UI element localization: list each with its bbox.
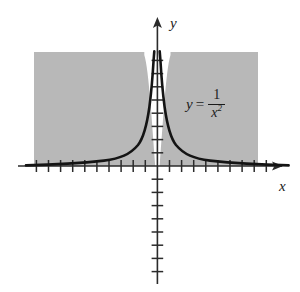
fraction: 1 x2 — [208, 88, 225, 120]
denominator-exponent: 2 — [218, 103, 223, 113]
x-axis-label: x — [279, 179, 286, 194]
y-axis-label: y — [170, 16, 177, 31]
equation-annotation: y = 1 x2 — [186, 88, 225, 120]
graph-canvas — [0, 0, 300, 292]
equals-sign: = — [196, 97, 204, 112]
fraction-numerator: 1 — [210, 88, 223, 103]
fraction-denominator: x2 — [209, 106, 224, 121]
figure-container: y x y = 1 x2 — [0, 0, 300, 292]
equation-left-side: y — [186, 97, 193, 112]
